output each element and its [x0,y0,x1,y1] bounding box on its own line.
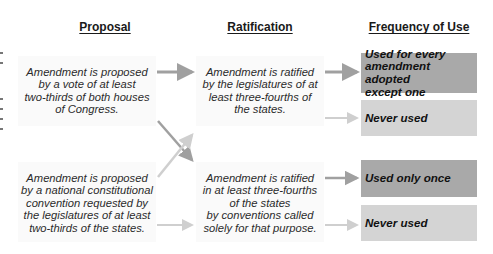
flow-arrows [0,0,493,254]
